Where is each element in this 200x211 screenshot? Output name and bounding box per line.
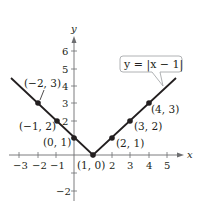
point-label: (−2, 3) [24,77,61,89]
x-tick-label: 3 [127,160,133,171]
graph-absolute-value: x −3 −2 −1 2 3 4 5 y [0,0,200,211]
x-tick-label: −2 [32,160,47,171]
point-label: (−1, 2) [19,120,56,132]
y-axis-label: y [70,23,77,34]
y-tick-label: 6 [62,46,68,57]
y-tick-label: 2 [62,116,68,127]
leader-line [40,90,44,100]
point-label: (1, 0) [77,159,105,171]
point-1-0 [90,152,96,158]
y-tick-label: 3 [62,98,68,109]
y-tick-label: 5 [62,64,68,75]
y-tick-label: −2 [56,186,71,197]
x-axis-arrow-icon [177,153,184,158]
point-label: (3, 2) [134,120,162,132]
point-label: (2, 1) [116,137,144,149]
abs-value-line [11,78,176,155]
point-label: (0, 1) [43,136,71,148]
point-2-1 [109,135,115,141]
x-tick-label: 4 [146,160,152,171]
x-tick-label: −3 [13,160,28,171]
y-axis: y 6 5 4 3 2 −2 [56,23,77,201]
point-0-1 [71,135,77,141]
x-axis-label: x [187,149,193,160]
point-label: (4, 3) [151,103,179,115]
x-tick-label: 2 [109,160,115,171]
y-tick-label: 4 [62,81,68,92]
x-tick-label: 5 [164,160,170,171]
y-axis-arrow-icon [72,36,77,43]
x-tick-label: −1 [50,160,65,171]
equation-callout: y = |x − 1| [120,56,183,86]
point-neg2-3 [35,100,41,106]
point-3-2 [127,118,133,124]
equation-label: y = |x − 1| [123,58,183,72]
